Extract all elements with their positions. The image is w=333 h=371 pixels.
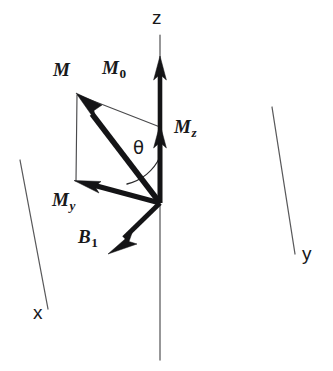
vector-label-m-base: M (53, 59, 70, 80)
diagram-canvas (0, 0, 333, 371)
vector-label-b1: B1 (78, 227, 98, 249)
vector-label-m: M (53, 60, 70, 79)
vector-label-m0-subscript: 0 (119, 66, 126, 81)
axis-label-y: y (302, 244, 312, 263)
vector-label-m0-base: M (102, 57, 119, 78)
x-axis-line (20, 160, 48, 309)
vector-m-arrowhead (76, 93, 102, 120)
vector-label-my-subscript: y (69, 198, 75, 213)
vector-label-my: My (52, 190, 75, 212)
projection-line-m-to-my (76, 95, 77, 181)
axis-label-z: z (152, 8, 162, 27)
vector-b1-shaft (124, 203, 160, 238)
vector-label-b1-base: B (78, 226, 91, 247)
vector-label-mz-base: M (174, 116, 191, 137)
angle-label-theta: θ (133, 139, 144, 157)
vector-diagram-figure: z y x M0 Mz M My B1 θ (0, 0, 333, 371)
vector-label-mz-subscript: z (191, 125, 197, 140)
vector-label-my-base: M (52, 189, 69, 210)
vector-label-b1-subscript: 1 (91, 235, 98, 250)
axis-label-x: x (33, 303, 43, 322)
vector-mz (154, 124, 167, 203)
vector-b1 (108, 203, 160, 254)
vector-label-mz: Mz (174, 117, 197, 139)
y-axis-line (272, 107, 295, 254)
vector-label-m0: M0 (102, 58, 126, 80)
